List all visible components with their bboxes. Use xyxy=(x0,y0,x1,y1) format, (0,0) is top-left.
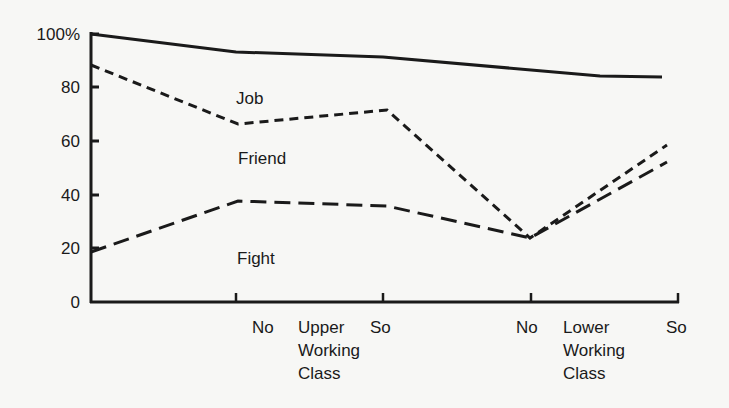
y-tick-label-20: 20 xyxy=(61,239,80,258)
x-label-lower-line2: Working xyxy=(563,341,625,360)
y-tick-label-80: 80 xyxy=(61,78,80,97)
series-fight-line xyxy=(91,162,667,252)
y-tick-label-0: 0 xyxy=(71,293,80,312)
series-label-friend: Friend xyxy=(238,149,286,168)
y-tick-label-60: 60 xyxy=(61,132,80,151)
series-label-job: Job xyxy=(236,89,263,108)
x-label-lower-line1: Lower xyxy=(563,318,610,337)
x-label-no-upper: No xyxy=(252,318,274,337)
x-label-so-lower: So xyxy=(666,318,687,337)
x-label-upper-line2: Working xyxy=(298,341,360,360)
x-label-so-upper: So xyxy=(370,318,391,337)
x-axis xyxy=(90,293,679,303)
series-job-line xyxy=(91,34,662,77)
y-axis xyxy=(91,32,99,303)
x-label-upper-line1: Upper xyxy=(298,318,345,337)
x-label-upper-line3: Class xyxy=(298,364,341,383)
y-tick-label-100: 100% xyxy=(37,25,80,44)
series-label-fight: Fight xyxy=(237,249,275,268)
series-friend-line xyxy=(91,65,667,238)
y-tick-label-40: 40 xyxy=(61,186,80,205)
x-label-lower-line3: Class xyxy=(563,364,606,383)
x-label-no-lower: No xyxy=(516,318,538,337)
line-chart: 100% 80 60 40 20 0 Job Friend Fight No U… xyxy=(0,0,729,408)
